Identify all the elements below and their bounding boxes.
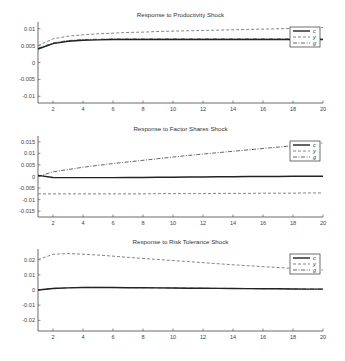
y-tick-label: -0.005	[19, 185, 35, 191]
series-y-line	[38, 254, 323, 270]
x-tick-label: 16	[260, 334, 266, 340]
x-tick-label: 16	[260, 220, 266, 226]
x-tick-label: 12	[200, 106, 206, 112]
chart-panel-2: Response to Factor Shares Shock0.0150.01…	[19, 125, 326, 226]
x-tick-label: 4	[81, 106, 84, 112]
y-tick-label: -0.01	[22, 93, 35, 99]
x-tick-label: 16	[260, 106, 266, 112]
y-tick-label: -0.015	[19, 208, 35, 214]
x-tick-label: 4	[81, 334, 84, 340]
x-tick-label: 14	[230, 106, 236, 112]
x-tick-label: 18	[290, 334, 296, 340]
x-tick-label: 6	[111, 334, 114, 340]
series-y-line	[38, 27, 323, 45]
x-tick-label: 20	[320, 220, 326, 226]
y-tick-label: 0	[32, 287, 35, 293]
chart-title: Response to Factor Shares Shock	[133, 125, 228, 132]
legend: cyg	[290, 141, 320, 161]
x-tick-label: 14	[230, 334, 236, 340]
y-tick-label: 0.005	[21, 162, 35, 168]
series-g-line	[38, 143, 323, 177]
chart-panel-3: Response to Risk Tolerance Shock0.020.01…	[22, 238, 326, 340]
figure: Response to Productivity Shock0.010.0050…	[0, 0, 345, 361]
x-tick-label: 18	[290, 106, 296, 112]
x-tick-label: 10	[170, 106, 176, 112]
y-tick-label: 0.015	[21, 139, 35, 145]
series-c-line	[38, 40, 323, 49]
x-tick-label: 12	[200, 334, 206, 340]
legend: cyg	[290, 27, 320, 47]
series-c-line	[38, 175, 323, 177]
x-tick-label: 20	[320, 106, 326, 112]
y-tick-label: 0.005	[21, 43, 35, 49]
series-y-line	[38, 193, 323, 194]
chart-panel-1: Response to Productivity Shock0.010.0050…	[19, 11, 326, 112]
x-tick-label: 2	[51, 106, 54, 112]
y-tick-label: -0.01	[22, 302, 35, 308]
impulse-response-figure: Response to Productivity Shock0.010.0050…	[0, 0, 345, 361]
chart-title: Response to Risk Tolerance Shock	[133, 238, 230, 245]
y-tick-label: 0.02	[24, 257, 35, 263]
y-tick-label: 0.01	[24, 150, 35, 156]
chart-title: Response to Productivity Shock	[137, 11, 225, 18]
x-tick-label: 6	[111, 106, 114, 112]
y-tick-label: -0.005	[19, 76, 35, 82]
y-tick-label: 0.01	[24, 26, 35, 32]
x-tick-label: 10	[170, 220, 176, 226]
x-tick-label: 12	[200, 220, 206, 226]
x-tick-label: 8	[141, 106, 144, 112]
y-tick-label: -0.01	[22, 197, 35, 203]
x-tick-label: 10	[170, 334, 176, 340]
x-tick-label: 4	[81, 220, 84, 226]
series-c-line	[38, 288, 323, 290]
x-tick-label: 20	[320, 334, 326, 340]
x-tick-label: 18	[290, 220, 296, 226]
x-tick-label: 14	[230, 220, 236, 226]
legend: cyg	[290, 254, 320, 274]
x-tick-label: 8	[141, 334, 144, 340]
y-tick-label: -0.02	[22, 317, 35, 323]
x-tick-label: 8	[141, 220, 144, 226]
y-tick-label: 0	[32, 60, 35, 66]
x-tick-label: 2	[51, 334, 54, 340]
y-tick-label: 0.01	[24, 272, 35, 278]
x-tick-label: 6	[111, 220, 114, 226]
x-tick-label: 2	[51, 220, 54, 226]
y-tick-label: 0	[32, 174, 35, 180]
